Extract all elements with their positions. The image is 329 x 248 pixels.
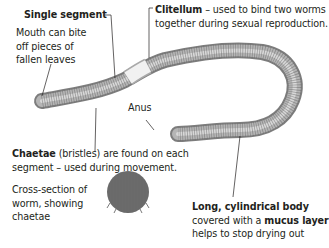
- body-desc-3: helps to stop drying out: [192, 227, 329, 241]
- cross-section-line-2: worm, showing: [12, 197, 87, 211]
- label-single-segment: Single segment: [24, 8, 107, 21]
- leader-chaetae: [95, 108, 96, 151]
- label-chaetae: Chaetae (bristles) are found on each seg…: [12, 147, 189, 174]
- label-body: Long, cylindrical body covered with a mu…: [192, 200, 329, 241]
- leader-anus: [146, 120, 154, 130]
- body-title: Long, cylindrical body: [192, 201, 309, 212]
- label-cross-section: Cross-section of worm, showing chaetae: [12, 183, 87, 224]
- label-anus: Anus: [128, 101, 151, 114]
- clitellum: [128, 66, 148, 78]
- label-mouth: Mouth can bite off pieces of fallen leav…: [16, 26, 86, 67]
- label-clitellum: Clitellum – used to bind two worms toget…: [155, 3, 328, 30]
- body-mucus-layer: mucus layer: [264, 215, 328, 226]
- leader-mouth: [42, 64, 51, 96]
- chaetae-desc-1: (bristles) are found on each: [56, 148, 189, 159]
- chaetae-desc-2: segment – used during movement.: [12, 161, 189, 174]
- anus-text: Anus: [128, 102, 151, 113]
- leader-clitellum: [149, 8, 153, 58]
- cross-section-line-3: chaetae: [12, 210, 87, 224]
- mouth-line-3: fallen leaves: [16, 53, 86, 67]
- mouth-line-1: Mouth can bite: [16, 26, 86, 40]
- leader-body: [233, 136, 240, 197]
- body-desc-pre: covered with a: [192, 215, 264, 226]
- mouth-line-2: off pieces of: [16, 40, 86, 54]
- clitellum-desc-2: together during sexual reproduction.: [155, 17, 328, 30]
- leader-single-segment: [103, 15, 115, 78]
- clitellum-desc-1: – used to bind two worms: [202, 4, 326, 15]
- cross-section-illustration: [107, 171, 149, 213]
- cross-section-line-1: Cross-section of: [12, 183, 87, 197]
- single-segment-title: Single segment: [24, 9, 107, 20]
- clitellum-title: Clitellum: [155, 4, 202, 15]
- chaetae-title: Chaetae: [12, 148, 56, 159]
